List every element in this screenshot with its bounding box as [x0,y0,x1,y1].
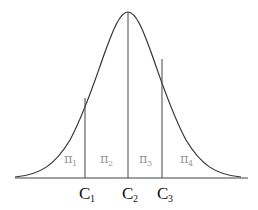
svg-text:C: C [122,184,133,203]
cutpoint-label-c1: C 1 [79,184,95,204]
cutpoint-label-c2: C 2 [122,184,138,204]
svg-text:3: 3 [147,159,152,168]
svg-text:2: 2 [133,193,138,204]
svg-text:C: C [79,184,90,203]
cutpoint-label-c3: C 3 [157,184,173,204]
svg-text:1: 1 [72,159,77,168]
svg-text:1: 1 [90,193,95,204]
region-label-pi3: π 3 [139,151,152,168]
normal-curve-diagram: π 1 π 2 π 3 π 4 C 1 C 2 C 3 [0,0,258,210]
region-label-pi1: π 1 [64,151,77,168]
region-label-pi4: π 4 [180,151,193,168]
region-label-pi2: π 2 [100,151,113,168]
svg-text:3: 3 [168,193,173,204]
svg-text:4: 4 [188,159,193,168]
svg-text:C: C [157,184,168,203]
svg-text:2: 2 [108,159,113,168]
